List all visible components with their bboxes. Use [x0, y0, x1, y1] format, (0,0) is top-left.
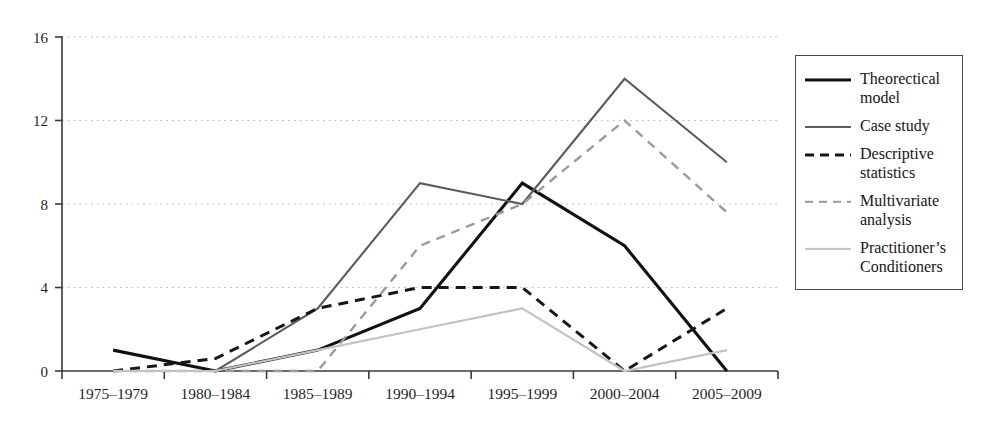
- series-line-4: [113, 308, 727, 371]
- x-tick-label-2: 1985–1989: [283, 385, 353, 402]
- series-line-3: [113, 121, 727, 372]
- legend-item-label: Practitioner’s Conditioners: [860, 238, 946, 276]
- chart-legend: Theorectical modelCase studyDescriptive …: [795, 55, 963, 290]
- legend-line-swatch-icon: [805, 240, 851, 257]
- x-tick-label-3: 1990–1994: [385, 385, 455, 402]
- y-tick-label-4: 4: [41, 280, 49, 296]
- y-tick-label-0: 0: [41, 364, 49, 380]
- legend-line-swatch-icon: [805, 118, 851, 135]
- y-axis: [55, 36, 62, 371]
- legend-item-1[interactable]: Case study: [805, 116, 952, 135]
- chart-canvas: 0481216 1975–19791980–19841985–19891990–…: [0, 0, 790, 429]
- x-tick-label-5: 2000–2004: [590, 385, 660, 402]
- y-tick-label-12: 12: [33, 113, 48, 129]
- legend-line-swatch-icon: [805, 71, 851, 88]
- grid-lines: [62, 37, 778, 288]
- legend-item-label: Multivariate analysis: [860, 191, 939, 229]
- y-tick-label-8: 8: [41, 197, 49, 213]
- legend-item-3[interactable]: Multivariate analysis: [805, 191, 952, 229]
- chart-page: 0481216 1975–19791980–19841985–19891990–…: [0, 0, 1001, 429]
- x-tick-label-6: 2005–2009: [692, 385, 762, 402]
- x-tick-label-0: 1975–1979: [78, 385, 148, 402]
- legend-item-4[interactable]: Practitioner’s Conditioners: [805, 238, 952, 276]
- legend-item-0[interactable]: Theorectical model: [805, 69, 952, 107]
- x-tick-label-1: 1980–1984: [181, 385, 251, 402]
- y-tick-label-16: 16: [33, 30, 49, 46]
- line-chart: 0481216 1975–19791980–19841985–19891990–…: [0, 0, 790, 429]
- x-tick-label-4: 1995–1999: [487, 385, 557, 402]
- legend-item-label: Descriptive statistics: [860, 144, 934, 182]
- legend-line-swatch-icon: [805, 146, 851, 163]
- legend-line-swatch-icon: [805, 193, 851, 210]
- series-line-1: [113, 79, 727, 371]
- x-tick-labels: 1975–19791980–19841985–19891990–19941995…: [78, 385, 762, 402]
- legend-item-label: Theorectical model: [860, 69, 940, 107]
- data-series-group: [113, 79, 727, 371]
- y-tick-labels: 0481216: [33, 30, 49, 380]
- legend-item-2[interactable]: Descriptive statistics: [805, 144, 952, 182]
- legend-item-label: Case study: [860, 116, 930, 135]
- series-line-0: [113, 183, 727, 371]
